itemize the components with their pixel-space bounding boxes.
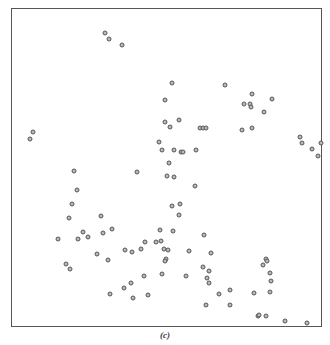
data-point xyxy=(163,120,168,125)
data-point xyxy=(67,216,72,221)
data-point xyxy=(165,174,170,179)
data-point xyxy=(187,249,192,254)
data-point xyxy=(181,150,186,155)
data-point xyxy=(171,229,176,234)
data-point xyxy=(163,259,168,264)
data-point xyxy=(228,303,233,308)
data-point xyxy=(159,239,164,244)
data-point xyxy=(269,279,274,284)
data-point xyxy=(228,288,233,293)
data-point xyxy=(107,37,112,42)
data-point xyxy=(204,303,209,308)
data-point xyxy=(283,319,288,324)
data-point xyxy=(177,118,182,123)
data-point xyxy=(319,141,324,146)
data-point xyxy=(108,292,113,297)
data-point xyxy=(300,141,305,146)
data-point xyxy=(160,272,165,277)
data-point xyxy=(110,227,115,232)
data-point xyxy=(101,231,106,236)
data-point xyxy=(81,230,86,235)
data-point xyxy=(31,130,36,135)
data-point xyxy=(157,140,162,145)
data-point xyxy=(249,105,254,110)
data-point xyxy=(193,184,198,189)
data-point xyxy=(106,258,111,263)
data-point xyxy=(120,43,125,48)
data-point xyxy=(202,233,207,238)
data-point xyxy=(70,202,75,207)
data-point xyxy=(163,98,168,103)
data-point xyxy=(56,237,61,242)
data-point xyxy=(166,248,171,253)
data-point xyxy=(204,126,209,131)
data-point xyxy=(207,269,212,274)
data-point xyxy=(178,202,183,207)
data-point xyxy=(310,147,315,152)
data-point xyxy=(242,102,247,107)
data-point xyxy=(142,274,147,279)
data-point xyxy=(268,290,273,295)
data-point xyxy=(250,126,255,131)
data-point xyxy=(72,169,77,174)
data-point xyxy=(265,259,270,264)
data-point xyxy=(201,265,206,270)
data-point xyxy=(158,228,163,233)
scatter-figure: (c) xyxy=(0,0,330,345)
data-point xyxy=(261,263,266,268)
data-point xyxy=(209,251,214,256)
data-point xyxy=(95,252,100,257)
data-point xyxy=(250,92,255,97)
data-point xyxy=(76,237,81,242)
data-point xyxy=(264,314,269,319)
data-point xyxy=(172,175,177,180)
data-point xyxy=(170,204,175,209)
data-point xyxy=(170,81,175,86)
data-point xyxy=(262,110,267,115)
data-point xyxy=(103,31,108,36)
data-point xyxy=(131,296,136,301)
data-point xyxy=(217,292,222,297)
data-point xyxy=(168,125,173,130)
data-point xyxy=(68,267,73,272)
data-point xyxy=(123,248,128,253)
data-point xyxy=(130,250,135,255)
data-point xyxy=(194,148,199,153)
data-point xyxy=(298,135,303,140)
data-point xyxy=(122,286,127,291)
data-point xyxy=(64,262,69,267)
data-point xyxy=(177,213,182,218)
plot-frame xyxy=(11,8,322,327)
data-point xyxy=(252,291,257,296)
data-point xyxy=(270,97,275,102)
data-point xyxy=(129,281,134,286)
data-point xyxy=(139,247,144,252)
data-point xyxy=(28,137,33,142)
figure-caption: (c) xyxy=(0,330,330,340)
data-point xyxy=(268,271,273,276)
data-point xyxy=(172,148,177,153)
data-point xyxy=(240,128,245,133)
data-point xyxy=(305,321,310,326)
data-point xyxy=(223,83,228,88)
data-point xyxy=(207,281,212,286)
data-point xyxy=(86,235,91,240)
data-point xyxy=(160,148,165,153)
data-point xyxy=(99,214,104,219)
data-point xyxy=(146,293,151,298)
data-point xyxy=(316,154,321,159)
data-point xyxy=(167,161,172,166)
data-point xyxy=(257,313,262,318)
data-point xyxy=(184,274,189,279)
data-point xyxy=(143,240,148,245)
data-point xyxy=(135,170,140,175)
data-point xyxy=(75,188,80,193)
